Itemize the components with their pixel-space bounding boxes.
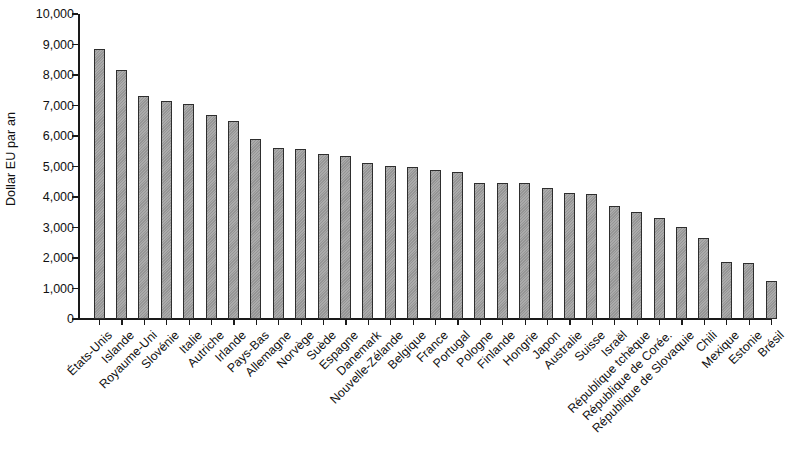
x-axis-tick-mark [637, 319, 638, 325]
y-axis-title: Dollar EU par an [0, 0, 22, 318]
bar [138, 96, 149, 319]
x-axis-tick-mark [323, 319, 324, 325]
bar [497, 183, 508, 319]
x-axis-tick-mark [390, 319, 391, 325]
x-axis-tick-mark [144, 319, 145, 325]
x-axis-tick-mark [435, 319, 436, 325]
x-axis-tick-mark [614, 319, 615, 325]
y-axis-tick-mark [72, 13, 78, 15]
y-axis-tick-label: 7,000 [22, 99, 74, 113]
x-axis-tick-mark [121, 319, 122, 325]
x-axis-tick-mark [525, 319, 526, 325]
y-axis-tick-mark [72, 288, 78, 290]
bar [564, 193, 575, 319]
bar [385, 166, 396, 319]
y-axis-tick-labels: 01,0002,0003,0004,0005,0006,0007,0008,00… [22, 0, 74, 330]
x-axis-tick-mark [569, 319, 570, 325]
x-axis-tick-mark [480, 319, 481, 325]
x-axis-tick-mark [211, 319, 212, 325]
y-axis-tick-label: 5,000 [22, 160, 74, 174]
bar [273, 148, 284, 319]
x-axis-tick-mark [771, 319, 772, 325]
bar [340, 156, 351, 319]
x-axis-tick-mark [278, 319, 279, 325]
y-axis-tick-mark [72, 318, 78, 320]
x-axis-tick-mark [502, 319, 503, 325]
y-axis-tick-mark [72, 257, 78, 259]
y-axis-tick-mark [72, 105, 78, 107]
bar [228, 121, 239, 319]
y-axis-tick-label: 6,000 [22, 129, 74, 143]
x-axis-tick-mark [256, 319, 257, 325]
bar [250, 139, 261, 319]
x-axis-tick-mark [99, 319, 100, 325]
plot-area [78, 14, 772, 319]
x-axis-tick-mark [301, 319, 302, 325]
x-axis-tick-mark [233, 319, 234, 325]
x-axis-tick-mark [413, 319, 414, 325]
y-axis-tick-mark [72, 44, 78, 46]
y-axis-tick-mark [72, 166, 78, 168]
x-axis-tick-mark [547, 319, 548, 325]
y-axis-tick-label: 3,000 [22, 221, 74, 235]
x-axis-tick-mark [659, 319, 660, 325]
x-axis-tick-mark [189, 319, 190, 325]
y-axis-tick-label: 0 [22, 312, 74, 326]
y-axis-tick-label: 8,000 [22, 68, 74, 82]
x-axis-tick-mark [592, 319, 593, 325]
x-axis-tick-mark [345, 319, 346, 325]
bar [743, 263, 754, 319]
y-axis-tick-mark [72, 196, 78, 198]
bar [676, 227, 687, 319]
bar [698, 238, 709, 319]
bar [407, 167, 418, 320]
bar [609, 206, 620, 319]
bar [542, 188, 553, 319]
bar [94, 49, 105, 319]
y-axis-tick-mark [72, 227, 78, 229]
bar [452, 172, 463, 319]
bar [206, 115, 217, 319]
x-axis-tick-mark [681, 319, 682, 325]
bar [721, 262, 732, 319]
y-axis-tick-mark [72, 135, 78, 137]
y-axis-tick-label: 9,000 [22, 38, 74, 52]
y-axis-tick-label: 1,000 [22, 282, 74, 296]
y-axis-tick-label: 4,000 [22, 190, 74, 204]
bar [183, 104, 194, 319]
y-axis-tick-mark [72, 74, 78, 76]
x-axis-tick-mark [749, 319, 750, 325]
bar [318, 154, 329, 319]
x-axis-tick-mark [704, 319, 705, 325]
bar [161, 101, 172, 319]
bar [766, 281, 777, 319]
bar [474, 183, 485, 319]
x-axis-tick-mark [726, 319, 727, 325]
bar [654, 218, 665, 319]
bar [519, 183, 530, 319]
x-axis-tick-mark [368, 319, 369, 325]
x-axis-tick-mark [166, 319, 167, 325]
bar [295, 149, 306, 319]
y-axis-tick-label: 10,000 [22, 7, 74, 21]
bar [362, 163, 373, 319]
y-axis-tick-label: 2,000 [22, 251, 74, 265]
x-axis-tick-mark [457, 319, 458, 325]
bar [430, 170, 441, 319]
bar [116, 70, 127, 319]
bar [631, 212, 642, 319]
bar [586, 194, 597, 319]
